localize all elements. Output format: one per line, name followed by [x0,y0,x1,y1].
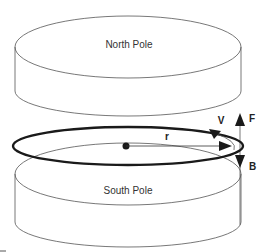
north-pole-label: North Pole [105,39,153,50]
radius-label: r [165,131,169,142]
magnetic-force-diagram: North Pole South Pole r V F B [0,0,268,252]
field-label: B [249,161,256,172]
south-pole-label: South Pole [104,185,153,196]
force-label: F [249,113,255,124]
velocity-label: V [218,115,225,126]
south-pole-bottom-edge [15,222,241,247]
north-pole-bottom-edge [15,91,241,116]
force-arrow-up-icon [235,113,245,126]
radius-arrowhead-icon [219,141,232,151]
north-pole-magnet: North Pole [15,16,241,116]
